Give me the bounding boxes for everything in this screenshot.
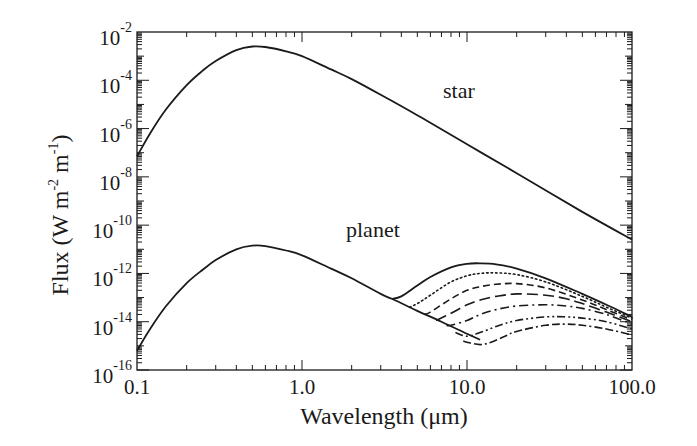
flux-chart: 0.11.010.0100.0 10-210-410-610-810-1010-…: [0, 0, 697, 446]
y-tick-label: 10-4: [99, 68, 132, 98]
y-tick-label: 10-12: [92, 261, 132, 291]
plot-frame: [137, 32, 632, 370]
curves-layer: [137, 46, 632, 350]
x-tick-label: 100.0: [608, 375, 655, 399]
y-tick-label: 10-10: [92, 213, 132, 243]
y-tick-label: 10-2: [99, 20, 132, 50]
series-planet-reflected: [137, 245, 480, 350]
y-tick-label: 10-6: [99, 117, 132, 147]
y-axis-title: Flux (W m-2 m-1): [46, 135, 73, 296]
series-star: [137, 46, 632, 239]
y-tick-label: 10-14: [92, 310, 132, 340]
x-tick-labels: 0.11.010.0100.0: [124, 375, 656, 399]
y-tick-label: 10-8: [99, 165, 132, 195]
x-tick-label: 1.0: [289, 375, 315, 399]
x-axis-title: Wavelength (μm): [300, 403, 468, 429]
series-planet-thermal-7: [463, 324, 632, 345]
axis-ticks: [137, 32, 632, 370]
y-tick-labels: 10-210-410-610-810-1010-1210-1410-16: [92, 20, 132, 388]
star-annotation: star: [443, 78, 475, 103]
planet-annotation: planet: [346, 217, 400, 242]
series-planet-thermal-2: [410, 273, 632, 318]
x-tick-label: 10.0: [449, 375, 486, 399]
x-tick-label: 0.1: [124, 375, 150, 399]
